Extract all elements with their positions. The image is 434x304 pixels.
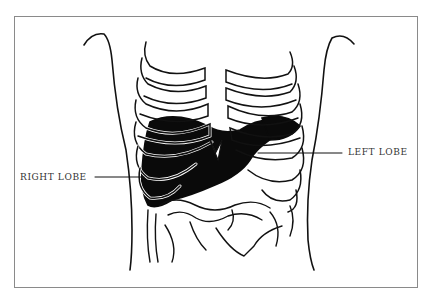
liver <box>142 117 275 207</box>
right-lobe-label: RIGHT LOBE <box>20 172 87 182</box>
left-lobe-label: LEFT LOBE <box>348 147 408 157</box>
intestines <box>147 200 293 262</box>
